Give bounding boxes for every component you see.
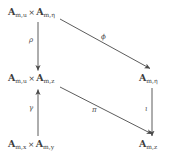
commutative-diagram: Am,u×Am,η Am,u×Am,z Am,x×Am,y Am,η Am,z … xyxy=(0,0,178,160)
node-bottom-left: Am,x×Am,y xyxy=(8,139,54,150)
node-middle-left-factor2-sub: m,z xyxy=(44,77,55,84)
node-top-left-factor2-base: A xyxy=(36,6,43,17)
node-top-left: Am,u×Am,η xyxy=(8,7,55,18)
arrow-label-gamma: γ xyxy=(29,105,33,112)
node-bottom-left-factor2-sub: m,y xyxy=(43,143,54,150)
node-bottom-right-sub: m,z xyxy=(146,143,157,150)
node-middle-right: Am,η xyxy=(139,73,158,84)
node-middle-left-factor2-base: A xyxy=(36,72,43,83)
node-middle-right-sub: m,η xyxy=(146,77,158,84)
product-operator: × xyxy=(26,140,35,149)
arrow-label-pi: π xyxy=(92,107,97,114)
arrow-label-iota: ι xyxy=(145,106,148,113)
product-operator: × xyxy=(27,74,36,83)
node-bottom-left-factor2-base: A xyxy=(36,138,43,149)
arrow-phi xyxy=(60,19,150,69)
node-middle-left-factor1-sub: m,u xyxy=(15,77,27,84)
arrow-label-rho: ρ xyxy=(29,37,33,44)
node-bottom-left-factor1-sub: m,x xyxy=(15,143,26,150)
node-top-left-factor1-sub: m,u xyxy=(15,11,27,18)
node-top-left-factor2-sub: m,η xyxy=(44,11,56,18)
node-bottom-right: Am,z xyxy=(139,139,157,150)
product-operator: × xyxy=(27,8,36,17)
node-middle-left: Am,u×Am,z xyxy=(8,73,55,84)
arrow-label-phi: ϕ xyxy=(101,34,106,41)
arrow-pi xyxy=(60,87,152,134)
